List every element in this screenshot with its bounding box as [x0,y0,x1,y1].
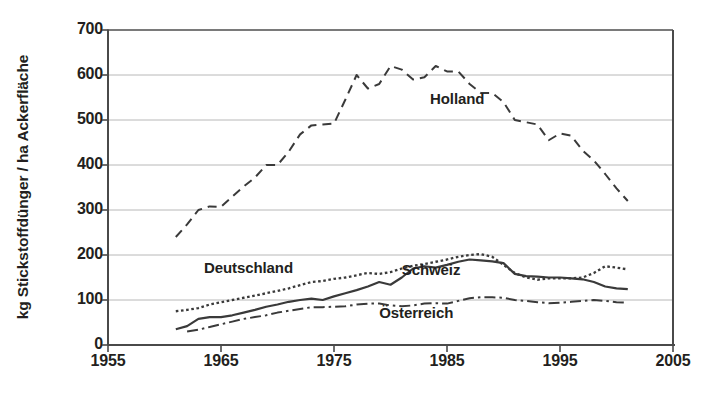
series-line-holland [176,66,628,237]
series-label-deutschland: Deutschland [204,259,293,276]
series-label-schweiz: Schweiz [402,261,461,278]
series-label-holland: Holland [430,90,484,107]
plot-area [0,0,716,409]
series-label-oesterreich: Österreich [379,304,453,321]
chart-figure: kg Stickstoffdünger / ha Ackerfläche 010… [0,0,716,409]
